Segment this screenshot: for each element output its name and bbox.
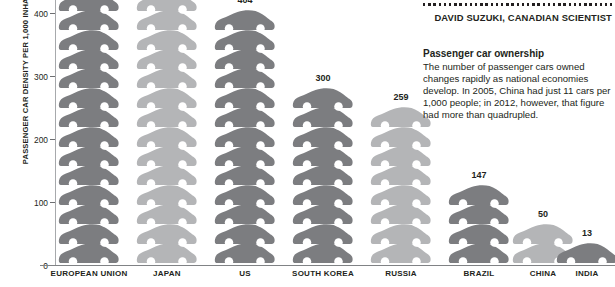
column-value-label: 404 [213, 0, 277, 5]
category-label-european-union: EUROPEAN UNION [46, 269, 132, 279]
dotted-rule-divider [423, 3, 612, 6]
column-value-label: 50 [511, 209, 575, 219]
blurb-title: Passenger car ownership [423, 48, 615, 59]
category-label-japan: JAPAN [124, 269, 210, 279]
column-value-label: 13 [555, 228, 615, 238]
attribution-quote-source: DAVID SUZUKI, CANADIAN SCIENTIST [423, 12, 612, 24]
car-pictogram-icon [214, 8, 276, 34]
pictogram-plot-area: 4043002591475013 [0, 0, 615, 265]
car-pictogram-icon [58, 0, 120, 15]
car-pictogram-icon [292, 86, 354, 112]
category-label-south-korea: SOUTH KOREA [280, 269, 366, 279]
car-pictogram-icon [448, 183, 510, 209]
x-axis-baseline [40, 265, 615, 266]
blurb-body-text: The number of passenger cars owned chang… [423, 61, 615, 121]
column-value-label: 300 [291, 73, 355, 83]
column-value-label: 147 [447, 170, 511, 180]
category-label-us: US [202, 269, 288, 279]
infographic-canvas: PASSENGER CAR DENSITY PER 1,000 INHABITA… [0, 0, 615, 287]
category-label-russia: RUSSIA [358, 269, 444, 279]
category-label-india: INDIA [544, 269, 615, 279]
car-pictogram-icon [136, 0, 198, 15]
car-pictogram-icon [556, 241, 615, 265]
